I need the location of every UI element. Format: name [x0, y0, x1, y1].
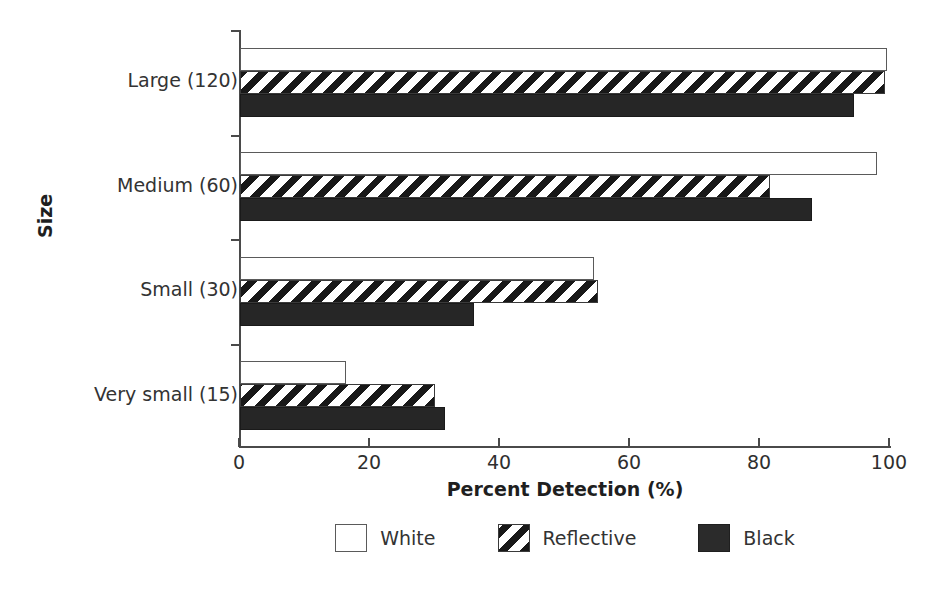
- bar-row: [240, 361, 890, 384]
- x-axis-tick-label: 0: [233, 451, 245, 473]
- bar-row: [240, 303, 890, 326]
- bar-row: [240, 94, 890, 117]
- legend-label: Reflective: [543, 527, 637, 549]
- x-axis-tick: [238, 438, 240, 447]
- bar-row: [240, 407, 890, 430]
- x-axis-tick-label: 20: [357, 451, 381, 473]
- x-axis-tick: [368, 438, 370, 447]
- x-axis-tick: [888, 438, 890, 447]
- x-axis-tick: [758, 438, 760, 447]
- x-axis-title: Percent Detection (%): [239, 478, 891, 500]
- bar-reflective-medium-60: [240, 175, 770, 198]
- bar-row: [240, 280, 890, 303]
- legend-swatch-reflective-icon: [498, 524, 530, 552]
- bar-row: [240, 198, 890, 221]
- x-axis-line: [239, 446, 891, 448]
- bar-black-large-120: [240, 94, 854, 117]
- bar-row: [240, 384, 890, 407]
- y-axis-title: Size: [34, 194, 56, 238]
- x-axis-tick-label: 40: [487, 451, 511, 473]
- bar-chart-figure: Size 020406080100 Large (120)Medium (60)…: [0, 0, 937, 595]
- bar-black-small-30: [240, 303, 474, 326]
- bar-white-medium-60: [240, 152, 877, 175]
- legend-item-white[interactable]: White: [335, 524, 435, 552]
- x-axis-tick-label: 60: [617, 451, 641, 473]
- x-axis-tick-label: 100: [871, 451, 907, 473]
- y-axis-category-label: Medium (60): [117, 174, 238, 196]
- bar-reflective-large-120: [240, 71, 885, 94]
- bar-row: [240, 257, 890, 280]
- legend-swatch-black-icon: [698, 524, 730, 552]
- y-axis-tick: [231, 344, 240, 346]
- x-axis-tick: [628, 438, 630, 447]
- legend-label: Black: [743, 527, 794, 549]
- x-axis-tick-label: 80: [747, 451, 771, 473]
- y-axis-category-label: Small (30): [140, 278, 238, 300]
- bar-white-very-small-15: [240, 361, 346, 384]
- bar-reflective-small-30: [240, 280, 598, 303]
- y-axis-category-label: Large (120): [127, 69, 238, 91]
- y-axis-tick: [231, 30, 240, 32]
- legend-swatch-white-icon: [335, 524, 367, 552]
- bar-row: [240, 152, 890, 175]
- y-axis-tick: [231, 239, 240, 241]
- legend-item-reflective[interactable]: Reflective: [498, 524, 637, 552]
- legend-label: White: [380, 527, 435, 549]
- bar-row: [240, 48, 890, 71]
- bar-white-large-120: [240, 48, 887, 71]
- bar-black-very-small-15: [240, 407, 445, 430]
- y-axis-tick: [231, 135, 240, 137]
- bar-black-medium-60: [240, 198, 812, 221]
- bar-reflective-very-small-15: [240, 384, 435, 407]
- legend-item-black[interactable]: Black: [698, 524, 794, 552]
- x-axis-tick: [498, 438, 500, 447]
- bar-white-small-30: [240, 257, 594, 280]
- chart-legend: WhiteReflectiveBlack: [239, 524, 891, 552]
- bar-row: [240, 71, 890, 94]
- bar-row: [240, 175, 890, 198]
- y-axis-category-label: Very small (15): [94, 383, 238, 405]
